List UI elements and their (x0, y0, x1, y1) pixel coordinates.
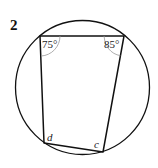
angle-label-c: c (94, 138, 99, 150)
angle-label-75: 75° (42, 38, 57, 50)
angle-label-85: 85° (104, 38, 119, 50)
angle-label-d: d (47, 131, 53, 143)
circumscribed-circle (16, 21, 150, 155)
question-number: 2 (10, 17, 18, 33)
cyclic-quadrilateral-diagram: 2 75° 85° d c (0, 0, 158, 168)
quadrilateral (40, 36, 124, 152)
